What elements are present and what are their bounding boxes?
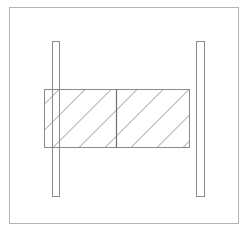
hatch-line <box>131 90 189 148</box>
hatch-line <box>0 90 33 148</box>
hatch-line <box>183 90 241 148</box>
hatch-line <box>53 90 111 148</box>
hatch-line <box>0 90 7 148</box>
right-plate <box>197 42 205 197</box>
hatch-line <box>157 90 215 148</box>
diagram-canvas <box>0 0 244 231</box>
diagram-svg <box>0 0 244 231</box>
hatch-line <box>79 90 137 148</box>
hatch-line <box>27 90 85 148</box>
hatch-line <box>105 90 163 148</box>
